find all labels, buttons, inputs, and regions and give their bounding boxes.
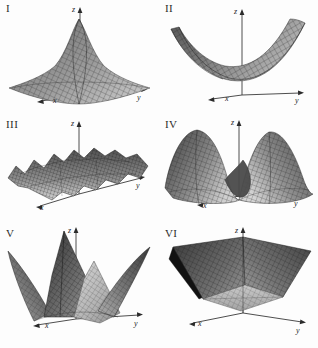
axis-label-y-2: y [294, 96, 299, 105]
axis-label-x-3: x [39, 203, 44, 212]
panel-1-gaussian-peak: I [0, 0, 159, 116]
axis-label-x-5: x [44, 321, 49, 330]
axis-label-z-5: z [67, 226, 72, 235]
surface-2-paraboloid [171, 19, 305, 81]
surface-5-saddle [8, 231, 150, 323]
axis-label-z-1: z [71, 5, 76, 14]
axis-label-z-6: z [234, 226, 239, 235]
panel-label-3: III [6, 119, 18, 130]
axis-label-y-4: y [293, 199, 298, 208]
panel-6-plot: x y z [159, 225, 318, 348]
panel-label-2: II [165, 3, 173, 14]
panel-5-plot: x y z [0, 225, 159, 348]
axis-label-x-6: x [197, 319, 202, 328]
panel-1-plot: x y z [0, 0, 159, 116]
panel-2-paraboloid-trough: II [159, 0, 318, 116]
panel-4-plot: x y z [159, 116, 318, 225]
axis-label-z-4: z [230, 118, 235, 127]
panel-3-plot: x y z [0, 116, 159, 225]
panel-2-plot: x y z [159, 0, 318, 116]
axis-label-y-1: y [136, 93, 141, 102]
surface-3-ripple [8, 148, 148, 200]
panel-label-6: VI [165, 228, 177, 239]
axis-label-x-2: x [224, 94, 229, 103]
panel-3-rippled-plateau: III [0, 116, 159, 225]
surface-6-bowl [169, 237, 311, 313]
panel-label-1: I [6, 3, 10, 14]
axis-label-z-3: z [70, 119, 75, 128]
panel-label-4: IV [165, 119, 177, 130]
panel-4-multiple-peaks: IV [159, 116, 318, 225]
axis-label-z-2: z [233, 7, 238, 16]
axis-label-y-3: y [135, 181, 140, 190]
panel-6-bowl-cone: VI [159, 225, 318, 348]
panel-label-5: V [6, 228, 14, 239]
axis-label-y-6: y [295, 326, 300, 335]
axis-label-x-1: x [52, 96, 57, 105]
axis-label-x-4: x [202, 201, 207, 210]
surface-plot-figure: I [0, 0, 318, 348]
panel-5-folded-saddle: V [0, 225, 159, 348]
axis-label-y-5: y [133, 319, 138, 328]
surface-1-gaussian [9, 19, 150, 104]
